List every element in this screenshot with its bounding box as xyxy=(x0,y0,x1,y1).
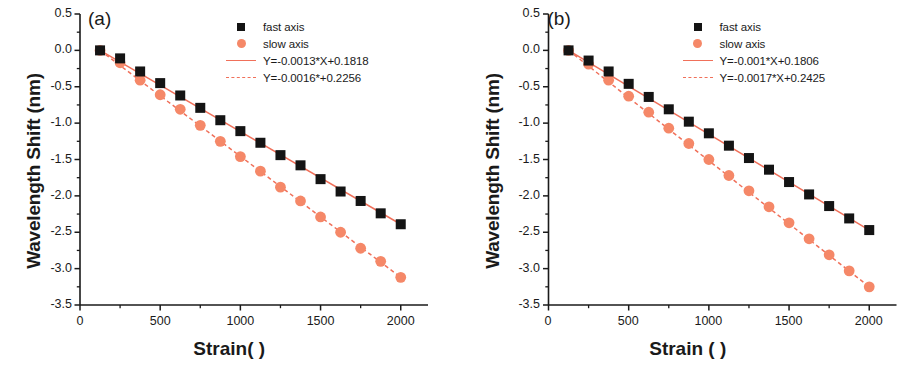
x-tick-label: 1500 xyxy=(759,314,819,328)
data-point-slow-axis xyxy=(783,217,794,228)
circle-marker-icon xyxy=(693,39,702,48)
y-tick-label: -2.0 xyxy=(500,188,540,202)
y-tick-label: -2.5 xyxy=(500,224,540,238)
chart-panel-a: (a) Wavelength Shift (nm) Strain( ) fast… xyxy=(0,0,459,373)
legend-b: fast axisslow axisY=-0.001*X+0.1806Y=-0.… xyxy=(681,18,826,86)
data-point-slow-axis xyxy=(315,212,326,223)
data-point-fast-axis xyxy=(623,79,633,89)
data-point-slow-axis xyxy=(623,91,634,102)
data-point-slow-axis xyxy=(643,107,654,118)
legend-solid-line-icon xyxy=(681,60,715,61)
data-point-slow-axis xyxy=(723,170,734,181)
data-point-fast-axis xyxy=(255,138,265,148)
x-tick-label: 500 xyxy=(598,314,658,328)
data-point-slow-axis xyxy=(683,138,694,149)
legend-a: fast axisslow axisY=-0.0013*X+0.1818Y=-0… xyxy=(224,18,369,86)
y-tick-label: -1.5 xyxy=(32,152,72,166)
legend-row: Y=-0.0017*X+0.2425 xyxy=(681,69,826,86)
legend-label: fast axis xyxy=(715,21,761,33)
legend-label: slow axis xyxy=(715,38,766,50)
legend-label: fast axis xyxy=(258,21,304,33)
legend-label: Y=-0.0017*X+0.2425 xyxy=(715,72,826,84)
data-point-slow-axis xyxy=(175,104,186,115)
data-point-fast-axis xyxy=(396,219,406,229)
legend-row: Y=-0.001*X+0.1806 xyxy=(681,52,826,69)
square-marker-icon xyxy=(237,23,245,31)
data-point-fast-axis xyxy=(175,90,185,100)
legend-label: Y=-0.0013*X+0.1818 xyxy=(258,55,369,67)
data-point-fast-axis xyxy=(95,45,105,55)
y-tick-label: -3.5 xyxy=(500,297,540,311)
x-tick-label: 0 xyxy=(50,314,110,328)
data-point-fast-axis xyxy=(703,128,713,138)
legend-label: slow axis xyxy=(258,38,309,50)
y-tick-label: -2.0 xyxy=(32,188,72,202)
legend-solid-line-icon xyxy=(224,60,258,61)
y-tick-label: 0.0 xyxy=(500,42,540,56)
data-point-slow-axis xyxy=(823,249,834,260)
data-point-slow-axis xyxy=(355,243,366,254)
circle-marker-icon xyxy=(237,39,246,48)
data-point-fast-axis xyxy=(296,160,306,170)
square-marker-icon xyxy=(694,23,702,31)
data-point-slow-axis xyxy=(703,154,714,165)
y-tick-label: -3.0 xyxy=(32,261,72,275)
data-point-fast-axis xyxy=(784,177,794,187)
data-point-fast-axis xyxy=(316,174,326,184)
data-point-slow-axis xyxy=(255,166,266,177)
data-point-fast-axis xyxy=(235,126,245,136)
data-point-fast-axis xyxy=(376,208,386,218)
legend-square-icon xyxy=(681,23,715,31)
data-point-slow-axis xyxy=(743,185,754,196)
x-tick-label: 1500 xyxy=(291,314,351,328)
legend-circle-icon xyxy=(224,39,258,48)
x-tick-label: 500 xyxy=(130,314,190,328)
data-point-fast-axis xyxy=(864,225,874,235)
data-point-slow-axis xyxy=(663,123,674,134)
data-point-slow-axis xyxy=(215,136,226,147)
data-point-slow-axis xyxy=(195,120,206,131)
solid-line-icon xyxy=(226,60,256,61)
data-point-slow-axis xyxy=(375,256,386,267)
data-point-fast-axis xyxy=(663,104,673,114)
legend-row: slow axis xyxy=(224,35,369,52)
legend-dashed-line-icon xyxy=(681,77,715,78)
x-tick-label: 2000 xyxy=(839,314,899,328)
y-tick-label: -1.0 xyxy=(32,115,72,129)
data-point-fast-axis xyxy=(155,78,165,88)
legend-dashed-line-icon xyxy=(224,77,258,78)
data-point-fast-axis xyxy=(603,66,613,76)
data-point-fast-axis xyxy=(336,187,346,197)
data-point-fast-axis xyxy=(804,189,814,199)
x-tick-label: 1000 xyxy=(678,314,738,328)
figure-two-panel-strain-response: (a) Wavelength Shift (nm) Strain( ) fast… xyxy=(0,0,917,373)
data-point-fast-axis xyxy=(195,103,205,113)
chart-panel-b: (b) Wavelength Shift (nm) Strain ( ) fas… xyxy=(459,0,917,373)
y-tick-label: -1.0 xyxy=(500,115,540,129)
x-tick-label: 2000 xyxy=(371,314,431,328)
data-point-fast-axis xyxy=(844,213,854,223)
y-tick-label: -3.5 xyxy=(32,297,72,311)
y-tick-label: -1.5 xyxy=(500,152,540,166)
x-tick-label: 1000 xyxy=(210,314,270,328)
data-point-slow-axis xyxy=(763,201,774,212)
data-point-slow-axis xyxy=(863,281,874,292)
data-point-fast-axis xyxy=(563,45,573,55)
data-point-fast-axis xyxy=(275,150,285,160)
legend-row: slow axis xyxy=(681,35,826,52)
data-point-fast-axis xyxy=(743,153,753,163)
data-point-fast-axis xyxy=(824,201,834,211)
y-tick-label: 0.0 xyxy=(32,42,72,56)
y-tick-label: -0.5 xyxy=(32,79,72,93)
y-tick-label: -2.5 xyxy=(32,224,72,238)
solid-line-icon xyxy=(683,60,713,61)
data-point-slow-axis xyxy=(235,151,246,162)
data-point-slow-axis xyxy=(295,196,306,207)
dashed-line-icon xyxy=(683,77,713,78)
legend-circle-icon xyxy=(681,39,715,48)
legend-label: Y=-0.001*X+0.1806 xyxy=(715,55,819,67)
data-point-fast-axis xyxy=(583,56,593,66)
data-point-fast-axis xyxy=(356,196,366,206)
data-point-fast-axis xyxy=(683,117,693,127)
data-point-slow-axis xyxy=(155,89,166,100)
